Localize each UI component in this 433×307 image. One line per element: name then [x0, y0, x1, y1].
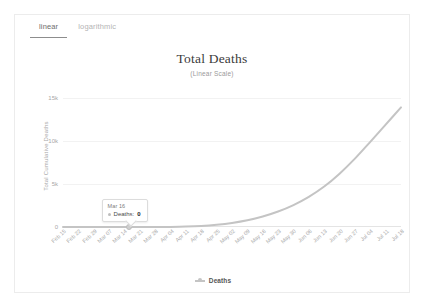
x-tick-label: Jun 27 [343, 228, 359, 244]
x-tick-label: Jul 11 [375, 228, 390, 242]
x-axis-ticks: Feb 15Feb 22Feb 29Mar 07Mar 14Mar 21Mar … [63, 228, 401, 268]
x-tick-label: Apr 11 [174, 228, 190, 243]
x-tick-label: Feb 15 [50, 228, 67, 244]
chart-tooltip: Mar 16 Deaths: 0 [102, 199, 148, 222]
plot-wrapper: 05k10k15k Feb 15Feb 22Feb 29Mar 07Mar 14… [15, 15, 411, 294]
x-tick-label: Feb 22 [66, 228, 83, 244]
chart-legend[interactable]: Deaths [15, 277, 411, 284]
x-tick-label: Mar 21 [127, 228, 144, 244]
tooltip-value: 0 [137, 211, 140, 217]
tooltip-row: Deaths: 0 [108, 211, 141, 217]
y-tick-label: 15k [48, 95, 58, 101]
y-tick-label: 0 [55, 224, 58, 230]
x-tick-label: Jul 04 [359, 228, 374, 242]
x-tick-label: May 30 [280, 228, 297, 245]
legend-swatch-deaths [195, 280, 205, 282]
x-tick-label: Mar 07 [96, 228, 113, 244]
y-tick-label: 10k [48, 138, 58, 144]
x-tick-label: Jul 18 [390, 228, 405, 242]
chart-card: linear logarithmic Total Deaths (Linear … [14, 14, 410, 293]
x-tick-label: May 09 [234, 228, 251, 245]
x-tick-label: May 02 [219, 228, 236, 245]
x-tick-label: Mar 28 [142, 228, 159, 244]
y-tick-label: 5k [52, 181, 58, 187]
tooltip-date: Mar 16 [108, 203, 141, 209]
x-tick-label: Jun 20 [327, 228, 343, 244]
tooltip-marker-dot [108, 213, 111, 216]
x-tick-label: Feb 29 [81, 228, 98, 244]
x-tick-label: Mar 14 [112, 228, 129, 244]
x-tick-label: Apr 04 [158, 228, 174, 243]
x-tick-label: Apr 25 [205, 228, 221, 243]
x-tick-label: Jun 06 [297, 228, 313, 244]
x-tick-label: May 23 [265, 228, 282, 245]
x-tick-label: Jun 13 [312, 228, 328, 244]
legend-label-deaths: Deaths [209, 277, 231, 284]
x-tick-label: May 16 [249, 228, 266, 245]
x-tick-label: Apr 18 [189, 228, 205, 243]
